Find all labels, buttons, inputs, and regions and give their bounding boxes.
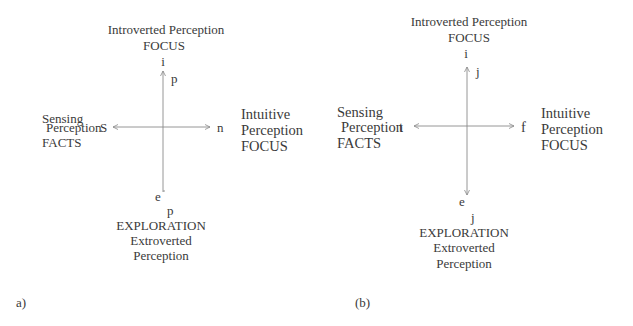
- panel-a-bottom-axis-letter: p: [167, 203, 174, 218]
- panel-b-bottom-line3: Perception: [436, 256, 492, 271]
- panel-b-right-pole: f: [521, 119, 526, 135]
- panel-b-bottom-axis-letter: j: [471, 210, 475, 225]
- panel-a-bottom-line1: EXPLORATION: [116, 218, 206, 233]
- panel-a-left-pole: S: [100, 120, 107, 135]
- panel-b-bottom-line1: EXPLORATION: [419, 225, 509, 240]
- panel-b-right-line3: FOCUS: [541, 137, 588, 153]
- panel-a-top-focus: FOCUS: [143, 38, 185, 53]
- panel-a-bottom-line3: Perception: [133, 248, 189, 263]
- panel-a-top-axis-letter: p: [171, 71, 178, 86]
- panel-a-right-line3: FOCUS: [241, 138, 288, 154]
- panel-a-left-line3: FACTS: [42, 135, 82, 150]
- panel-a-axes: [113, 71, 210, 192]
- panel-b-axes: [414, 67, 514, 195]
- panel-a-right-line1: Intuitive: [241, 106, 290, 122]
- panel-b-top-label: Introverted Perception: [411, 14, 528, 29]
- panel-a-bottom-pole: e: [155, 189, 161, 204]
- panel-b-bottom-line2: Extroverted: [433, 240, 494, 255]
- panel-b-bottom-pole: e: [459, 194, 465, 209]
- panel-b-left-line1: Sensing: [337, 104, 383, 120]
- panel-b-left-line2: Perception: [341, 119, 403, 135]
- panel-a-bottom-line2: Extroverted: [130, 233, 191, 248]
- panel-a-right-line2: Perception: [241, 122, 303, 138]
- panel-a-left-line2: Perception: [46, 120, 102, 135]
- panel-b-top-focus: FOCUS: [448, 30, 490, 45]
- panel-a-top-pole: i: [161, 54, 165, 69]
- panel-b-top-pole: i: [464, 46, 468, 61]
- panel-b-right-line2: Perception: [541, 121, 603, 137]
- panel-a-right-pole: n: [217, 120, 224, 135]
- axes-layer: [0, 0, 633, 326]
- panel-a-caption: a): [16, 295, 26, 310]
- panel-b-caption: (b): [355, 295, 370, 310]
- panel-b-left-pole: t: [399, 119, 403, 135]
- panel-b-top-axis-letter: j: [476, 64, 480, 79]
- panel-b-left-line3: FACTS: [337, 135, 381, 151]
- panel-a-top-label: Introverted Perception: [108, 22, 225, 37]
- panel-b-right-line1: Intuitive: [541, 105, 590, 121]
